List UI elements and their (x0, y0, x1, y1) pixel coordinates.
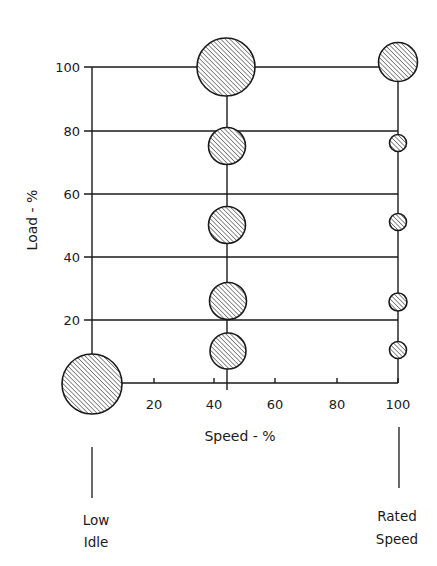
bubble-chart: 100 80 60 40 20 20 40 60 80 100 Speed - … (0, 0, 437, 566)
annotation-low-idle: Low Idle (83, 447, 110, 550)
bubble-100-25 (389, 293, 407, 311)
x-tick-label-40: 40 (206, 397, 223, 412)
bubble-44-26 (210, 283, 247, 320)
y-tick-label-60: 60 (63, 187, 80, 202)
y-tick-label-80: 80 (63, 124, 80, 139)
x-tick-label-60: 60 (267, 397, 284, 412)
y-tick-label-100: 100 (55, 60, 80, 75)
bubble-100-75 (390, 135, 407, 152)
x-tick-label-80: 80 (329, 397, 346, 412)
y-tick-labels: 100 80 60 40 20 (55, 60, 80, 328)
x-tick-label-100: 100 (386, 397, 411, 412)
bubble-44-50 (209, 207, 246, 244)
low-idle-label-line2: Idle (84, 534, 109, 550)
bubble-44-100 (197, 38, 255, 96)
bubble-44-10 (210, 333, 246, 369)
y-tick-label-40: 40 (63, 250, 80, 265)
y-tick-label-20: 20 (63, 313, 80, 328)
y-axis-title: Load - % (24, 190, 40, 251)
bubble-100-100 (379, 43, 418, 82)
annotation-rated-speed: Rated Speed (376, 427, 418, 547)
bubble-100-10 (390, 342, 407, 359)
low-idle-label-line1: Low (83, 512, 110, 528)
bubble-100-50 (390, 214, 407, 231)
rated-speed-label-line2: Speed (376, 531, 418, 547)
bubbles (62, 38, 418, 414)
bubble-44-75 (209, 128, 246, 165)
x-tick-labels: 20 40 60 80 100 (146, 397, 411, 412)
rated-speed-label-line1: Rated (377, 508, 417, 524)
x-tick-label-20: 20 (146, 397, 163, 412)
x-axis-title: Speed - % (204, 428, 275, 444)
bubble-low-idle (62, 354, 122, 414)
